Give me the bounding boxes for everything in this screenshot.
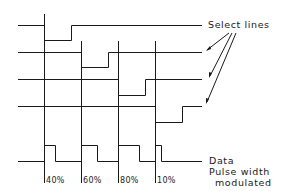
duty-cycle-label-3: 80%: [120, 176, 139, 185]
pulse-width-label: Pulse width: [209, 166, 270, 177]
duty-cycle-label-1: 40%: [46, 176, 65, 185]
modulated-label: modulated: [215, 177, 272, 188]
duty-cycle-label-2: 60%: [83, 176, 102, 185]
arrowhead-2: [209, 72, 212, 78]
data-label: Data: [209, 155, 234, 166]
leader-arrow-3: [207, 33, 236, 102]
select-line-2: [18, 53, 202, 68]
select-line-3: [18, 80, 202, 96]
data-pwm-line: [18, 146, 202, 162]
select-line-4: [18, 107, 202, 123]
arrowhead-1: [206, 46, 211, 51]
duty-cycle-label-4: 10%: [157, 176, 176, 185]
select-line-1: [18, 26, 202, 41]
select-lines-label: Select lines: [208, 19, 270, 30]
arrowhead-3: [206, 98, 209, 104]
